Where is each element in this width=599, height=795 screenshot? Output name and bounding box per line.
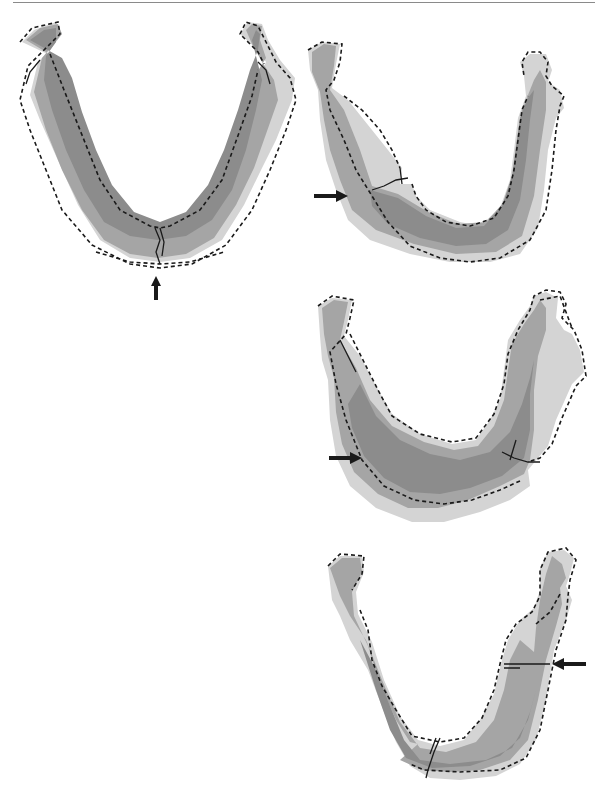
mandible-panel-3 [318, 290, 586, 522]
mandible-panel-1 [20, 22, 296, 300]
arrow-up-icon [151, 276, 161, 300]
mandible-panel-2 [308, 42, 564, 262]
mandible-figure [0, 0, 599, 795]
mandible-panel-4 [328, 548, 586, 780]
arrow-left-icon [552, 658, 586, 670]
